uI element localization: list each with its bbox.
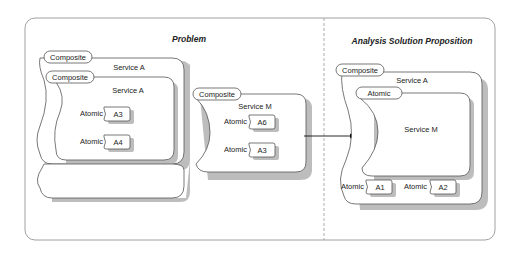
svg-text:Composite: Composite (52, 73, 88, 82)
svg-text:Composite: Composite (199, 90, 235, 99)
problem-outer-service-a-bottom (37, 160, 190, 202)
diagram-canvas: Problem Analysis Solution Proposition Co… (0, 0, 516, 260)
solution-composite-tag: Composite (336, 64, 384, 76)
svg-text:A2: A2 (438, 183, 447, 192)
svg-text:Composite: Composite (50, 53, 86, 62)
svg-text:A3: A3 (113, 110, 122, 119)
svg-text:A1: A1 (375, 183, 384, 192)
svg-text:Atomic: Atomic (341, 182, 364, 191)
svg-text:Atomic: Atomic (224, 117, 247, 126)
problem-inner-service-name: Service A (112, 86, 144, 95)
problem-title: Problem (172, 34, 206, 44)
svg-text:Composite: Composite (342, 66, 378, 75)
svg-text:A6: A6 (257, 118, 266, 127)
svg-text:Atomic: Atomic (80, 109, 103, 118)
solution-service-a-name: Service A (396, 76, 428, 85)
svg-text:Atomic: Atomic (224, 145, 247, 154)
svg-text:A4: A4 (113, 138, 122, 147)
svg-text:A3: A3 (257, 146, 266, 155)
problem-service-m-name: Service M (238, 102, 271, 111)
solution-inner-service-m (360, 93, 474, 180)
problem-inner-composite-tag: Composite (46, 71, 94, 83)
solution-title: Analysis Solution Proposition (351, 36, 473, 46)
problem-service-m-composite-tag: Composite (193, 88, 241, 100)
solution-atomic-tag: Atomic (356, 87, 402, 99)
svg-text:Atomic: Atomic (404, 182, 427, 191)
solution-service-m-name: Service M (404, 125, 437, 134)
problem-outer-composite-tag: Composite (44, 51, 92, 63)
svg-text:Atomic: Atomic (80, 137, 103, 146)
svg-text:Atomic: Atomic (368, 89, 391, 98)
problem-outer-service-name: Service A (113, 63, 145, 72)
